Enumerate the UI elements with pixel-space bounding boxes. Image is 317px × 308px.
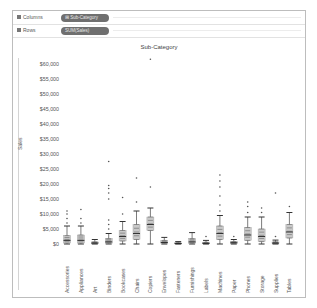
outlier-point[interactable] [275, 236, 277, 238]
box-supplies[interactable] [272, 192, 279, 244]
x-tick-label: Bookcases [120, 269, 126, 293]
outlier-point[interactable] [80, 222, 82, 224]
outlier-point[interactable] [108, 198, 110, 200]
box-art[interactable] [91, 240, 98, 245]
outlier-point[interactable] [108, 224, 110, 226]
outlier-point[interactable] [261, 207, 263, 209]
box-furnishings[interactable] [189, 233, 196, 244]
outlier-point[interactable] [219, 195, 221, 197]
x-tick-label: Paper [231, 280, 237, 293]
box-tables[interactable] [286, 206, 293, 244]
outlier-point[interactable] [219, 174, 221, 176]
x-tick-label: Supplies [273, 274, 279, 293]
outlier-point[interactable] [247, 206, 249, 208]
box-plot[interactable] [13, 11, 307, 299]
box-bookcases[interactable] [119, 197, 126, 244]
outlier-point[interactable] [219, 210, 221, 212]
outlier-point[interactable] [108, 161, 110, 163]
outlier-point[interactable] [66, 210, 68, 212]
x-tick-label: Binders [106, 276, 112, 293]
outlier-point[interactable] [108, 188, 110, 190]
box-chairs[interactable] [133, 177, 140, 244]
outlier-point[interactable] [136, 177, 138, 179]
box-accessories[interactable] [64, 210, 71, 244]
outlier-point[interactable] [136, 201, 138, 203]
outlier-point[interactable] [233, 236, 235, 238]
outlier-point[interactable] [66, 222, 68, 224]
box-copiers[interactable] [147, 58, 154, 244]
outlier-point[interactable] [108, 219, 110, 221]
box-machines[interactable] [216, 174, 223, 244]
box-appliances[interactable] [77, 209, 84, 244]
outlier-point[interactable] [122, 213, 124, 215]
x-tick-label: Accessories [64, 266, 70, 293]
box-labels[interactable] [203, 236, 210, 244]
outlier-point[interactable] [219, 180, 221, 182]
outlier-point[interactable] [66, 218, 68, 220]
x-tick-label: Art [92, 287, 98, 293]
x-tick-label: Copiers [147, 276, 153, 293]
outlier-point[interactable] [247, 201, 249, 203]
outlier-point[interactable] [108, 185, 110, 187]
box-fasteners[interactable] [175, 242, 182, 244]
x-tick-label: Phones [245, 276, 251, 293]
outlier-point[interactable] [219, 204, 221, 206]
outlier-point[interactable] [247, 212, 249, 214]
x-tick-label: Machines [217, 272, 223, 293]
x-tick-label: Storage [259, 275, 265, 293]
box-phones[interactable] [244, 201, 251, 244]
outlier-point[interactable] [80, 218, 82, 220]
box-binders[interactable] [105, 161, 112, 244]
outlier-point[interactable] [80, 209, 82, 211]
x-tick-label: Chairs [134, 279, 140, 293]
box-envelopes[interactable] [161, 237, 168, 244]
x-tick-label: Tables [286, 279, 292, 293]
x-tick-label: Fasteners [175, 271, 181, 293]
outlier-point[interactable] [275, 192, 277, 194]
x-tick-label: Furnishings [189, 267, 195, 293]
outlier-point[interactable] [150, 58, 152, 60]
outlier-point[interactable] [150, 186, 152, 188]
x-tick-label: Labels [203, 278, 209, 293]
outlier-point[interactable] [219, 186, 221, 188]
x-tick-label: Envelopes [161, 270, 167, 293]
worksheet-frame: Columns ⊞ Sub-Category Rows SUM(Sales) S… [12, 10, 306, 298]
outlier-point[interactable] [66, 213, 68, 215]
outlier-point[interactable] [122, 197, 124, 199]
outlier-point[interactable] [261, 212, 263, 214]
box-paper[interactable] [230, 236, 237, 244]
outlier-point[interactable] [289, 206, 291, 208]
x-tick-label: Appliances [78, 269, 84, 293]
outlier-point[interactable] [205, 236, 207, 238]
outlier-point[interactable] [108, 192, 110, 194]
box-storage[interactable] [258, 207, 265, 244]
outlier-point[interactable] [108, 228, 110, 230]
